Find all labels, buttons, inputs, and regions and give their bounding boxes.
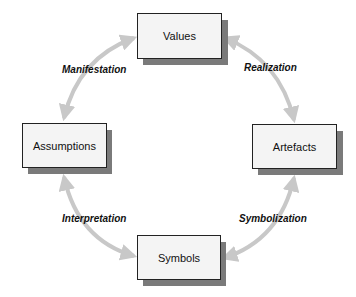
node-assumptions-label: Assumptions	[33, 140, 96, 152]
arrow-manifestation	[64, 38, 134, 118]
node-assumptions: Assumptions	[22, 123, 107, 168]
edge-label-manifestation: Manifestation	[62, 64, 126, 75]
edge-label-interpretation: Interpretation	[62, 213, 126, 224]
edge-label-symbolization: Symbolization	[239, 213, 307, 224]
node-values-label: Values	[163, 30, 196, 42]
node-symbols: Symbols	[137, 235, 221, 280]
edge-label-realization: Realization	[244, 62, 297, 73]
node-artefacts: Artefacts	[252, 124, 337, 169]
node-symbols-label: Symbols	[158, 252, 200, 264]
arrow-realization	[225, 38, 294, 120]
node-values: Values	[137, 13, 222, 59]
node-artefacts-label: Artefacts	[273, 141, 316, 153]
